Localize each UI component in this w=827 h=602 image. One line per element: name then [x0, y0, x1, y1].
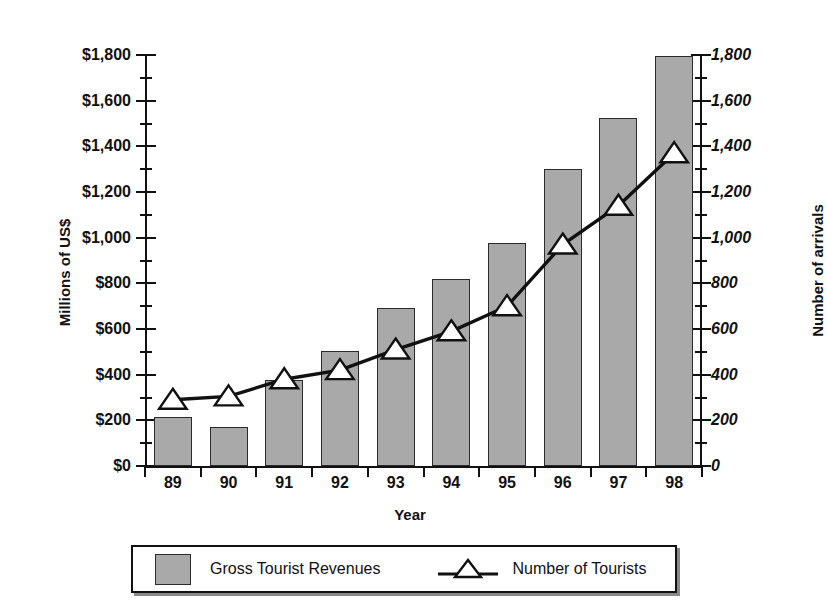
trend-markers — [159, 142, 688, 409]
trend-line — [173, 153, 674, 400]
x-axis-tick-label: 98 — [644, 475, 704, 491]
y-axis-right-tick-label: 1,600 — [711, 93, 801, 109]
legend-label-revenues: Gross Tourist Revenues — [210, 560, 380, 578]
y-axis-left-tick-label: $1,400 — [45, 138, 131, 154]
legend-swatch-icon — [155, 554, 191, 585]
legend-entry-tourists: Number of Tourists — [436, 556, 646, 582]
x-axis-tick-label: 91 — [254, 475, 314, 491]
y-axis-right-title: Number of arrivals — [809, 161, 826, 381]
legend-triangle-line-icon — [436, 556, 500, 582]
x-axis-title: Year — [300, 506, 520, 523]
triangle-marker-icon — [660, 142, 688, 162]
y-axis-right-tick-label: 1,000 — [711, 230, 801, 246]
line-series-number-of-tourists — [145, 55, 702, 468]
y-axis-left-tick-label: $1,600 — [45, 93, 131, 109]
y-axis-right-tick-label: 600 — [711, 321, 801, 337]
y-axis-right-tick-label: 800 — [711, 275, 801, 291]
plot-area: $1,800$1,600$1,400$1,200$1,000$800$600$4… — [145, 55, 702, 467]
y-axis-left-tick-label: $1,200 — [45, 184, 131, 200]
x-axis-tick-label: 97 — [588, 475, 648, 491]
y-axis-right-tick-label: 200 — [711, 412, 801, 428]
y-axis-right-tick-label: 1,200 — [711, 184, 801, 200]
triangle-marker-icon — [326, 359, 354, 379]
y-axis-right-tick-label: 1,400 — [711, 138, 801, 154]
x-axis-tick-label: 94 — [421, 475, 481, 491]
y-axis-left-tick-label: $800 — [45, 275, 131, 291]
x-axis-tick-label: 89 — [143, 475, 203, 491]
x-axis-tick-label: 92 — [310, 475, 370, 491]
legend-entry-revenues: Gross Tourist Revenues — [155, 554, 380, 585]
y-axis-right-tick-label: 0 — [711, 458, 801, 474]
x-axis-tick-label: 93 — [366, 475, 426, 491]
y-axis-left-tick-label: $400 — [45, 367, 131, 383]
triangle-marker-icon — [438, 320, 466, 340]
triangle-marker-icon — [493, 295, 521, 315]
y-axis-right-tick-label: 400 — [711, 367, 801, 383]
y-axis-left-tick-label: $600 — [45, 321, 131, 337]
legend-label-tourists: Number of Tourists — [512, 560, 646, 578]
x-axis-tick-label: 90 — [199, 475, 259, 491]
chart-legend: Gross Tourist Revenues Number of Tourist… — [131, 545, 677, 593]
y-axis-left-tick-label: $1,000 — [45, 230, 131, 246]
x-axis-tick-label: 96 — [533, 475, 593, 491]
y-axis-left-tick-label: $0 — [45, 458, 131, 474]
x-axis-tick-label: 95 — [477, 475, 537, 491]
y-axis-left-tick-label: $1,800 — [45, 47, 131, 63]
y-axis-left-tick-label: $200 — [45, 412, 131, 428]
triangle-marker-icon — [382, 339, 410, 359]
chart-canvas: Millions of US$ Number of arrivals Year … — [0, 0, 827, 602]
y-axis-right-tick-label: 1,800 — [711, 47, 801, 63]
